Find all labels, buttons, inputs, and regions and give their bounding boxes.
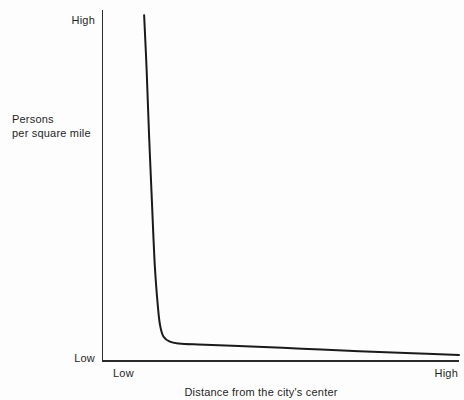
y-axis-tick-label-high: High	[0, 13, 95, 27]
y-axis-title-line-1: Persons	[12, 112, 98, 126]
density-decay-curve	[144, 15, 459, 355]
chart-plot-area	[0, 0, 464, 400]
x-axis-title: Distance from the city's center	[0, 385, 464, 399]
y-axis-title: Persons per square mile	[12, 112, 98, 140]
x-axis-tick-label-high: High	[0, 366, 458, 380]
y-axis-title-line-2: per square mile	[12, 126, 98, 140]
y-axis-tick-label-low: Low	[0, 351, 95, 365]
chart-container: High Low Persons per square mile Low Hig…	[0, 0, 464, 400]
